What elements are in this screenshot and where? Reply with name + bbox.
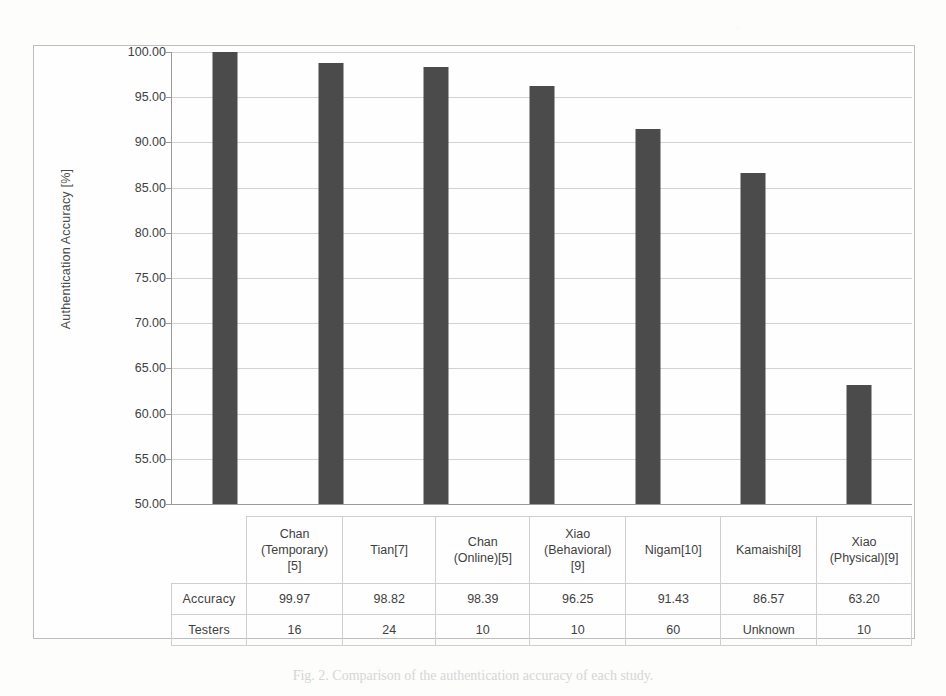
- category-label-cell: Xiao(Physical)[9]: [817, 517, 912, 584]
- y-axis-tick-label: 80.00: [96, 226, 166, 240]
- bar-slot: [595, 52, 701, 504]
- category-label-line: (Online)[5]: [437, 550, 528, 566]
- category-label-line: Chan: [437, 534, 528, 550]
- row-header-accuracy: Accuracy: [172, 584, 247, 615]
- category-label-line: [9]: [531, 558, 624, 574]
- table-corner-cell: [172, 517, 247, 584]
- y-axis-tick-label: 60.00: [96, 407, 166, 421]
- y-axis-tick-label: 100.00: [96, 45, 166, 59]
- category-label-line: (Behavioral): [531, 542, 624, 558]
- bar: [635, 129, 660, 504]
- bar-slot: [489, 52, 595, 504]
- category-label-cell: Nigam[10]: [626, 517, 721, 584]
- accuracy-value-cell: 98.82: [343, 584, 436, 615]
- category-label-cell: Xiao(Behavioral)[9]: [530, 517, 626, 584]
- y-axis-tick-labels: 100.0095.0090.0085.0080.0075.0070.0065.0…: [96, 52, 166, 504]
- accuracy-value-cell: 99.97: [247, 584, 343, 615]
- bar: [847, 385, 872, 504]
- table-row-accuracy: Accuracy99.9798.8298.3996.2591.4386.5763…: [172, 584, 912, 615]
- testers-value-cell: Unknown: [721, 615, 817, 646]
- data-table: Chan(Temporary)[5]Tian[7]Chan(Online)[5]…: [171, 516, 912, 646]
- table-row-testers: Testers1624101060Unknown10: [172, 615, 912, 646]
- bar: [212, 52, 237, 504]
- bar: [318, 63, 343, 504]
- bar-slot: [806, 52, 912, 504]
- category-label-line: Kamaishi[8]: [722, 542, 815, 558]
- category-label-cell: Tian[7]: [343, 517, 436, 584]
- y-axis-tick-label: 65.00: [96, 361, 166, 375]
- figure-frame: Authentication Accuracy [%] 100.0095.009…: [33, 45, 915, 639]
- y-axis-tick-label: 50.00: [96, 497, 166, 511]
- bar-slot: [278, 52, 384, 504]
- row-header-testers: Testers: [172, 615, 247, 646]
- plot-area: [171, 52, 912, 504]
- category-label-cell: Kamaishi[8]: [721, 517, 817, 584]
- category-label-cell: Chan(Online)[5]: [436, 517, 530, 584]
- testers-value-cell: 10: [436, 615, 530, 646]
- table-row-categories: Chan(Temporary)[5]Tian[7]Chan(Online)[5]…: [172, 517, 912, 584]
- category-label-line: Tian[7]: [344, 542, 434, 558]
- accuracy-value-cell: 91.43: [626, 584, 721, 615]
- testers-value-cell: 10: [817, 615, 912, 646]
- accuracy-value-cell: 96.25: [530, 584, 626, 615]
- y-axis-title: Authentication Accuracy [%]: [59, 59, 73, 439]
- accuracy-value-cell: 63.20: [817, 584, 912, 615]
- y-axis-tick-label: 75.00: [96, 271, 166, 285]
- y-axis-tick-label: 70.00: [96, 316, 166, 330]
- bar-slot: [172, 52, 278, 504]
- category-label-line: (Physical)[9]: [818, 550, 910, 566]
- bar: [530, 86, 555, 504]
- bars-container: [172, 52, 912, 504]
- accuracy-value-cell: 86.57: [721, 584, 817, 615]
- category-label-line: [5]: [248, 558, 341, 574]
- category-label-cell: Chan(Temporary)[5]: [247, 517, 343, 584]
- y-axis-tick-label: 95.00: [96, 90, 166, 104]
- gridline: [172, 504, 912, 505]
- bar-chart: Authentication Accuracy [%] 100.0095.009…: [34, 46, 914, 510]
- y-axis-tick-label: 85.00: [96, 181, 166, 195]
- accuracy-value-cell: 98.39: [436, 584, 530, 615]
- testers-value-cell: 60: [626, 615, 721, 646]
- testers-value-cell: 10: [530, 615, 626, 646]
- category-label-line: (Temporary): [248, 542, 341, 558]
- bar: [424, 67, 449, 504]
- testers-value-cell: 16: [247, 615, 343, 646]
- y-axis-tick-mark: [166, 504, 172, 505]
- y-axis-tick-label: 55.00: [96, 452, 166, 466]
- category-label-line: Xiao: [818, 534, 910, 550]
- bar: [741, 173, 766, 504]
- testers-value-cell: 24: [343, 615, 436, 646]
- bar-slot: [383, 52, 489, 504]
- y-axis-tick-label: 90.00: [96, 135, 166, 149]
- figure-caption: Fig. 2. Comparison of the authentication…: [0, 668, 946, 684]
- category-label-line: Xiao: [531, 526, 624, 542]
- scanned-page-background: Authentication Accuracy [%] 100.0095.009…: [0, 0, 946, 696]
- category-label-line: Nigam[10]: [627, 542, 719, 558]
- bar-slot: [701, 52, 807, 504]
- category-label-line: Chan: [248, 526, 341, 542]
